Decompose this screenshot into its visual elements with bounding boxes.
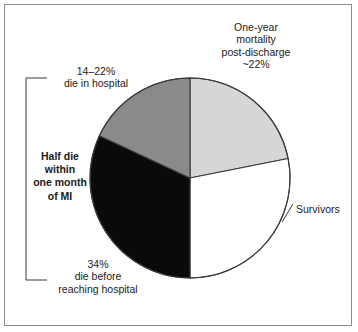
label-die-before-reaching-hospital: 34% die before reaching hospital <box>42 258 154 295</box>
label-survivors: Survivors <box>296 203 354 215</box>
figure-container: One-year mortality post-discharge ~22% S… <box>0 0 358 332</box>
label-die-in-hospital: 14–22% die in hospital <box>44 65 148 90</box>
label-one-year-mortality: One-year mortality post-discharge ~22% <box>206 21 306 71</box>
label-half-die-within-one-month: Half die within one month of MI <box>20 150 100 203</box>
pie-slice-survivors[interactable] <box>190 159 290 278</box>
